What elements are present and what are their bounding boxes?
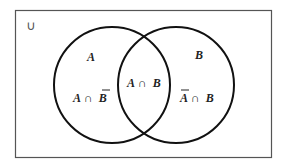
region-intersection-symbol: ∩ bbox=[135, 76, 150, 90]
set-b-label: B bbox=[194, 48, 203, 62]
region-b-only-intersect-symbol: ∩ bbox=[188, 91, 203, 105]
region-b-only-set-a-complement: A bbox=[179, 91, 188, 105]
region-b-only-label: A ∩ B bbox=[179, 90, 214, 105]
region-a-only-intersect-symbol: ∩ bbox=[81, 91, 96, 105]
universe-symbol: ∪ bbox=[26, 18, 36, 33]
region-b-only-set-b: B bbox=[205, 91, 214, 105]
region-intersection-label: A ∩ B bbox=[126, 76, 161, 90]
region-a-only-label: A ∩ B bbox=[72, 90, 110, 105]
region-a-only-set-a: A bbox=[72, 91, 81, 105]
venn-diagram: ∪ A B A ∩ B A ∩ B A ∩ B bbox=[0, 0, 287, 165]
svg-text:A ∩ B: A ∩ B bbox=[179, 91, 214, 105]
region-a-only-set-b-complement: B bbox=[98, 91, 107, 105]
region-intersection-set-a: A bbox=[126, 76, 135, 90]
set-a-label: A bbox=[86, 50, 95, 64]
region-intersection-set-b: B bbox=[152, 76, 161, 90]
svg-text:A ∩ B: A ∩ B bbox=[126, 76, 161, 90]
svg-text:A ∩ B: A ∩ B bbox=[72, 91, 107, 105]
